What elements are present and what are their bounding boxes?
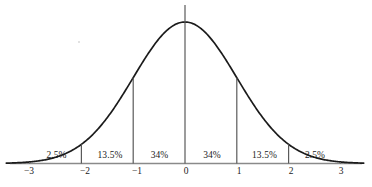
region-label-pos34: 34% — [203, 150, 221, 160]
region-label-pos2p5: 2.5% — [305, 150, 325, 160]
normal-distribution-figure: 2.5% 13.5% 34% 34% 13.5% 2.5% −3 −2 −1 0… — [0, 0, 372, 187]
x-tick-label-neg2: −2 — [80, 166, 90, 176]
region-label-neg13p5: 13.5% — [97, 150, 122, 160]
sigma-divider-group — [30, 5, 341, 164]
x-tick-label-pos1: 1 — [237, 166, 242, 176]
region-label-pos13p5: 13.5% — [252, 150, 277, 160]
x-tick-label-neg3: −3 — [24, 166, 34, 176]
x-tick-label-zero: 0 — [184, 166, 189, 176]
scan-artifact-speck — [78, 41, 80, 43]
x-tick-label-pos2: 2 — [289, 166, 294, 176]
region-label-neg2p5: 2.5% — [46, 150, 66, 160]
x-tick-label-neg1: −1 — [132, 166, 142, 176]
x-tick-label-pos3: 3 — [339, 166, 344, 176]
region-label-neg34: 34% — [151, 150, 169, 160]
